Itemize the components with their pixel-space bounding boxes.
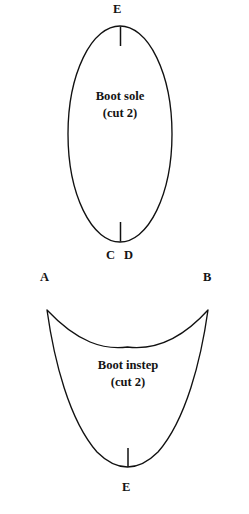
boot-instep-caption: Boot instep (cut 2) bbox=[60, 357, 196, 391]
boot-sole-caption-quantity: (cut 2) bbox=[60, 105, 180, 122]
boot-instep-label-e-bottom: E bbox=[122, 480, 131, 494]
boot-sole-label-d: D bbox=[124, 248, 133, 262]
boot-sole-caption: Boot sole (cut 2) bbox=[60, 88, 180, 122]
boot-instep-label-b: B bbox=[203, 270, 212, 284]
boot-instep-caption-title: Boot instep bbox=[98, 358, 159, 372]
boot-sole-label-c: C bbox=[106, 248, 115, 262]
boot-sole-label-e-top: E bbox=[113, 2, 122, 16]
boot-sole-outline bbox=[68, 26, 172, 242]
boot-instep-caption-quantity: (cut 2) bbox=[60, 374, 196, 391]
boot-sole-caption-title: Boot sole bbox=[96, 89, 145, 103]
boot-instep-label-a: A bbox=[40, 270, 49, 284]
pattern-sheet: E C D Boot sole (cut 2) A B E Boot inste… bbox=[0, 0, 249, 514]
